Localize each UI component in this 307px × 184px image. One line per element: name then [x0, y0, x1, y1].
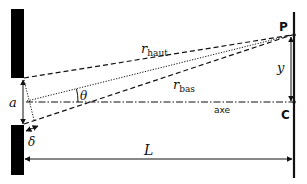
label-axe: axe — [214, 105, 231, 115]
label-delta: δ — [28, 135, 35, 149]
label-a: a — [9, 95, 17, 110]
label-y: y — [276, 60, 285, 75]
label-r-bas: rbas — [173, 77, 195, 94]
label-theta: θ — [80, 89, 88, 103]
theta-arc — [77, 89, 79, 102]
slit-wall-top — [11, 9, 24, 78]
label-P: P — [279, 20, 288, 34]
label-L: L — [143, 142, 153, 158]
point-C — [292, 100, 296, 104]
label-r-haut: rhaut — [141, 41, 168, 58]
double-slit-diagram: P C y rhaut rbas θ a δ L axe — [0, 0, 307, 184]
ray-center — [27, 35, 292, 101]
point-P — [292, 33, 296, 37]
slit-wall-bottom — [11, 125, 24, 175]
label-C: C — [281, 108, 290, 122]
delta-arrow — [26, 126, 38, 131]
